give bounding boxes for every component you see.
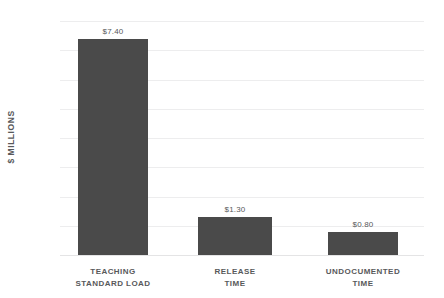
x-axis-category-label-line: TEACHING [90,267,135,276]
bar[interactable] [78,39,148,255]
bar-chart: $ MILLIONS $8$7$6$5$4$3$2$1$0 $7.40$1.30… [0,0,444,298]
x-axis-category-label-line: UNDOCUMENTED [326,267,400,276]
gridline [60,21,424,22]
bar-value-label: $7.40 [78,27,148,36]
bar-value-label: $0.80 [328,220,398,229]
x-axis-category-label-line: TIME [288,278,438,290]
bar-value-label: $1.30 [198,205,272,214]
x-axis-category-label: UNDOCUMENTEDTIME [288,266,438,289]
bar[interactable] [328,232,398,255]
bar[interactable] [198,217,272,255]
plot-area: $7.40$1.30$0.80 [60,21,424,255]
y-axis-title-label: $ MILLIONS [6,110,16,163]
y-axis-title: $ MILLIONS [0,0,22,298]
x-axis-category-label-line: RELEASE [215,267,256,276]
axis-baseline [60,255,424,256]
